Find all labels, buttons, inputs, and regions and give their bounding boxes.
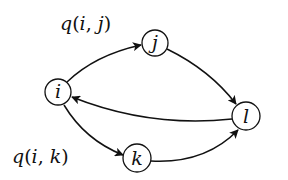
node-i: i bbox=[45, 79, 71, 105]
node-k-label: k bbox=[131, 147, 143, 169]
edge-label-q-i-k-fn: q bbox=[12, 145, 24, 167]
node-j: j bbox=[142, 30, 168, 56]
edge-label-q-i-k-arg2: k bbox=[50, 145, 62, 167]
edge-i-to-j bbox=[67, 45, 141, 82]
edge-l-to-i bbox=[72, 97, 232, 121]
edge-label-q-i-j-close: ) bbox=[104, 12, 111, 34]
edge-k-to-l bbox=[151, 130, 238, 161]
edge-label-q-i-j-sep: , bbox=[86, 12, 98, 34]
edge-label-q-i-k-open: ( bbox=[24, 145, 31, 167]
state-transition-diagram: i j k l q(i, j) q(i, k) bbox=[0, 0, 288, 180]
edge-j-to-l bbox=[167, 49, 236, 104]
edge-label-q-i-k-sep: , bbox=[38, 145, 50, 167]
node-i-label: i bbox=[55, 80, 61, 102]
edge-label-q-i-j-fn: q bbox=[60, 12, 72, 34]
node-k: k bbox=[123, 144, 151, 172]
edge-i-to-k bbox=[64, 105, 123, 155]
node-l-label: l bbox=[243, 105, 249, 127]
edge-label-q-i-j: q(i, j) bbox=[60, 12, 111, 34]
node-l: l bbox=[232, 102, 260, 130]
edge-label-q-i-j-open: ( bbox=[72, 12, 79, 34]
edge-label-q-i-k-close: ) bbox=[61, 145, 68, 167]
edge-label-q-i-k: q(i, k) bbox=[12, 145, 69, 167]
